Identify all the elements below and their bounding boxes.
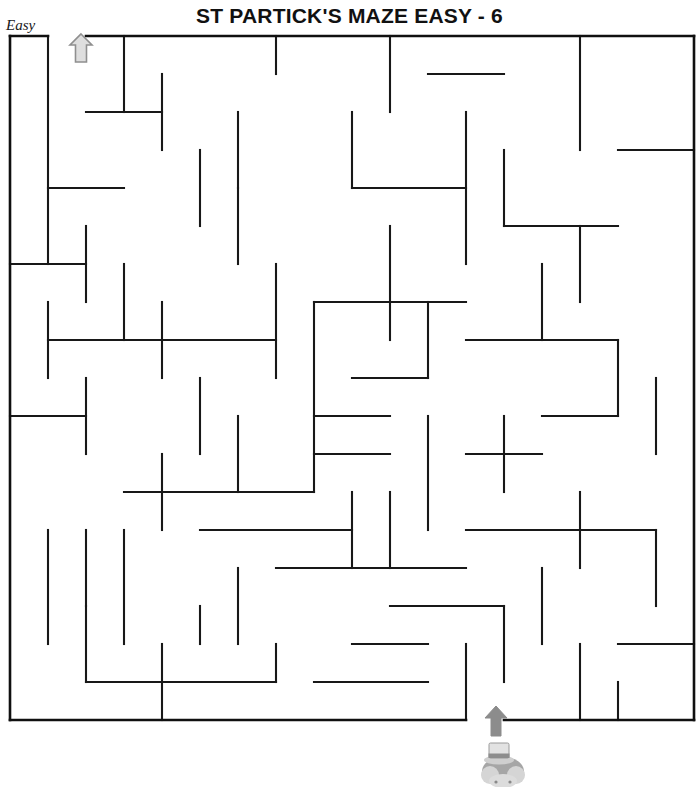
entrance-arrow-icon	[68, 32, 94, 64]
exit-arrow-icon	[484, 705, 508, 737]
leprechaun-icon	[476, 737, 530, 787]
maze-page: ST PARTICK'S MAZE EASY - 6 Easy	[0, 0, 699, 787]
maze-walls	[10, 36, 694, 720]
maze-grid	[0, 0, 699, 787]
